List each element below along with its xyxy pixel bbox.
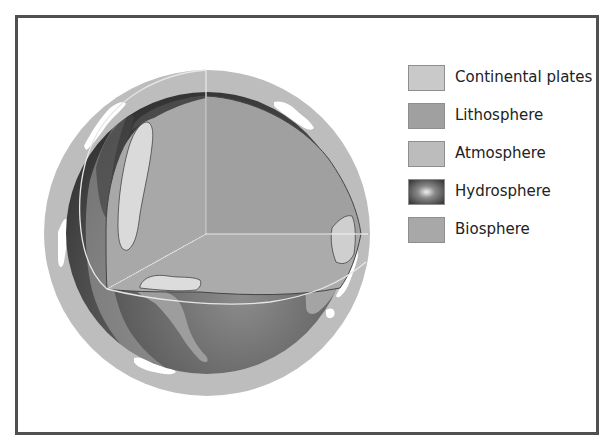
legend-item-atmosphere: Atmosphere xyxy=(408,141,588,167)
biosphere-swatch xyxy=(408,217,445,243)
continental-plate-floor xyxy=(140,275,201,291)
legend-item-continental-plates: Continental plates xyxy=(408,65,588,91)
continental-plates-swatch xyxy=(408,65,445,91)
atmosphere-swatch xyxy=(408,141,445,167)
hydrosphere-swatch xyxy=(408,179,445,205)
lithosphere-swatch xyxy=(408,103,445,129)
legend-item-hydrosphere: Hydrosphere xyxy=(408,179,588,205)
legend-label: Biosphere xyxy=(455,218,530,240)
legend-label: Atmosphere xyxy=(455,142,546,164)
legend-label: Lithosphere xyxy=(455,104,543,126)
legend-item-lithosphere: Lithosphere xyxy=(408,103,588,129)
legend-item-biosphere: Biosphere xyxy=(408,217,588,243)
legend-label: Continental plates xyxy=(455,66,592,88)
legend-label: Hydrosphere xyxy=(455,180,551,202)
